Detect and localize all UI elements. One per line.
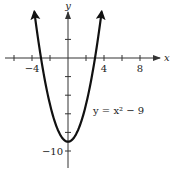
x-tick-label: 4 [101, 63, 107, 74]
axes [5, 12, 160, 168]
parabola-chart: −448−10xy y = x² − 9 [0, 0, 174, 170]
x-axis-label: x [164, 52, 170, 63]
equation-label: y = x² − 9 [92, 105, 144, 116]
x-tick-label: −4 [25, 63, 40, 74]
y-tick-label: −10 [42, 146, 63, 157]
y-axis-label: y [64, 0, 71, 11]
axis-labels: −448−10xy [25, 0, 170, 157]
x-tick-label: 8 [137, 63, 143, 74]
